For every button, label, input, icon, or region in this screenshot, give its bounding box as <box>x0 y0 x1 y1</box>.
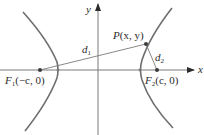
segment-d1 <box>40 44 146 70</box>
d1-label: d1 <box>82 43 92 57</box>
hyperbola-right-branch <box>141 8 174 128</box>
y-axis-label: y <box>85 3 91 15</box>
vertex-right <box>139 69 142 72</box>
vertex-left <box>57 69 60 72</box>
hyperbola-diagram: x y P(x, y) d1 d2 F1(−c, 0) F2(c, 0) <box>0 0 204 135</box>
point-p-label: P(x, y) <box>112 29 144 42</box>
focus-f1-label: F1(−c, 0) <box>4 74 45 88</box>
focus-f2-point <box>155 68 159 72</box>
x-axis-label: x <box>197 63 203 75</box>
focus-f2-label: F2(c, 0) <box>144 74 179 88</box>
focus-f1-point <box>38 68 42 72</box>
point-p <box>144 42 148 46</box>
d2-label: d2 <box>155 51 165 65</box>
